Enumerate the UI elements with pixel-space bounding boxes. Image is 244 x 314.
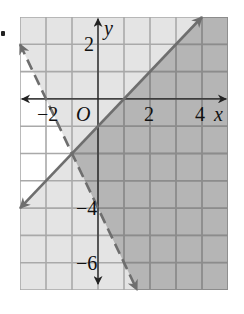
y-tick-label: 2 bbox=[84, 33, 94, 55]
inequality-graph: −2242−4−6Oxy bbox=[0, 0, 244, 314]
y-tick-label: −6 bbox=[76, 252, 97, 274]
y-axis-label: y bbox=[102, 17, 113, 40]
x-axis-label: x bbox=[213, 103, 223, 125]
x-tick-label: 4 bbox=[195, 103, 205, 125]
origin-label: O bbox=[76, 103, 90, 125]
y-tick-label: −4 bbox=[76, 197, 97, 219]
x-tick-label: 2 bbox=[144, 103, 154, 125]
x-tick-label: −2 bbox=[37, 103, 58, 125]
